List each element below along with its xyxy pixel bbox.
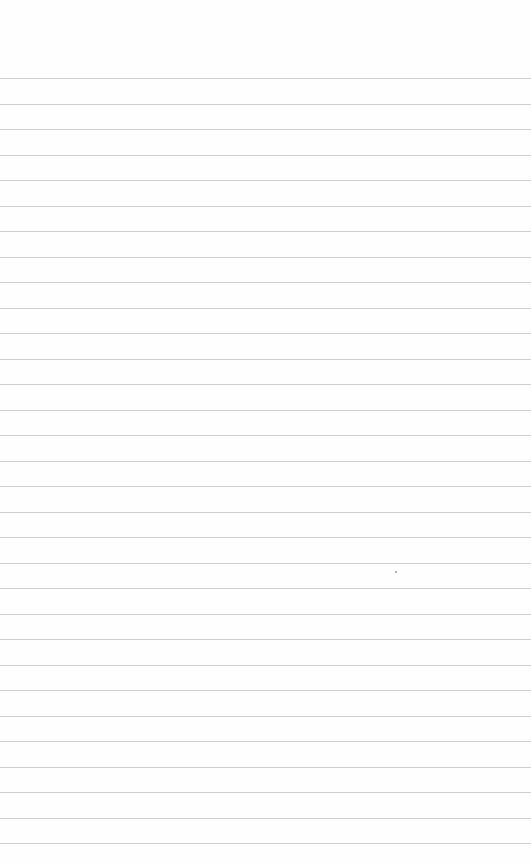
- ruled-line: [0, 359, 531, 360]
- ruled-line: [0, 410, 531, 411]
- lined-paper-page: [0, 0, 531, 865]
- ruled-line: [0, 435, 531, 436]
- ruled-line: [0, 384, 531, 385]
- paper-speck: [395, 571, 397, 573]
- ruled-line: [0, 716, 531, 717]
- ruled-line: [0, 180, 531, 181]
- ruled-line: [0, 741, 531, 742]
- ruled-line: [0, 614, 531, 615]
- ruled-line: [0, 486, 531, 487]
- ruled-line: [0, 512, 531, 513]
- ruled-line: [0, 639, 531, 640]
- ruled-line: [0, 206, 531, 207]
- ruled-line: [0, 563, 531, 564]
- ruled-line: [0, 690, 531, 691]
- ruled-line: [0, 231, 531, 232]
- ruled-line: [0, 818, 531, 819]
- ruled-line: [0, 588, 531, 589]
- ruled-line: [0, 129, 531, 130]
- ruled-line: [0, 333, 531, 334]
- ruled-line: [0, 843, 531, 844]
- ruled-line: [0, 537, 531, 538]
- ruled-line: [0, 104, 531, 105]
- ruled-line: [0, 257, 531, 258]
- ruled-line: [0, 282, 531, 283]
- ruled-line: [0, 308, 531, 309]
- ruled-line: [0, 792, 531, 793]
- ruled-line: [0, 461, 531, 462]
- ruled-line: [0, 155, 531, 156]
- ruled-line: [0, 78, 531, 79]
- ruled-line: [0, 665, 531, 666]
- ruled-line: [0, 767, 531, 768]
